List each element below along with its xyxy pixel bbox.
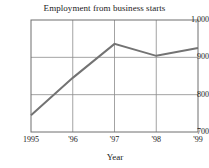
xtick-label-97: '97 [99, 136, 131, 144]
line-chart: Employment from business starts 1,000 90… [0, 0, 209, 168]
ytick-label-1000: 1,000 [182, 16, 209, 24]
xtick-label-1995: 1995 [15, 136, 47, 144]
xtick-label-98: '98 [140, 136, 172, 144]
xaxis-title: Year [31, 152, 199, 162]
xtick-label-96: '96 [57, 136, 89, 144]
xtick-label-99: '99 [182, 136, 209, 144]
ytick-label-900: 900 [182, 53, 209, 61]
ytick-label-800: 800 [182, 91, 209, 99]
